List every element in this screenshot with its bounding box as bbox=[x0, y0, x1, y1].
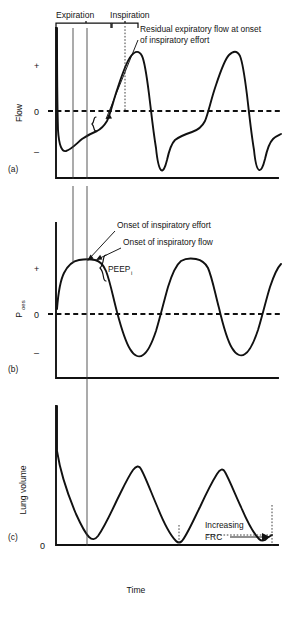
cross-panel-guide-lines bbox=[73, 28, 87, 546]
panel-c-lung-volume: 0 Lung volume Increasing FRC (c) Time bbox=[8, 406, 278, 595]
residual-flow-annotation-line2: of inspiratory effort bbox=[140, 35, 210, 45]
panel-a-tick-plus: + bbox=[34, 61, 39, 71]
peep-subscript: i bbox=[131, 270, 132, 276]
panel-b-poes-curve bbox=[57, 258, 281, 356]
panel-b-tag: (b) bbox=[8, 364, 18, 374]
panel-a-tag: (a) bbox=[8, 164, 18, 174]
panel-c-tick-zero: 0 bbox=[40, 541, 45, 551]
onset-effort-annotation: Onset of inspiratory effort bbox=[117, 220, 212, 230]
expiration-label: Expiration bbox=[56, 10, 94, 20]
phase-brackets: Expiration Inspiration bbox=[56, 10, 150, 28]
panel-b-y-axis-label: P bbox=[14, 312, 24, 318]
expiration-bracket bbox=[56, 21, 111, 28]
panel-a-axes bbox=[56, 28, 278, 178]
onset-effort-leader-line bbox=[89, 231, 115, 259]
panel-a-tick-zero: 0 bbox=[34, 107, 39, 117]
residual-flow-leader-line bbox=[106, 40, 138, 119]
panel-b-poes: + 0 – P oes PEEP i Onset of inspiratory … bbox=[8, 220, 281, 378]
onset-flow-arrowhead-icon bbox=[96, 255, 102, 260]
residual-flow-brace bbox=[92, 117, 96, 131]
panel-b-y-axis-subscript: oes bbox=[20, 300, 26, 310]
panel-b-tick-plus: + bbox=[34, 264, 39, 274]
panel-b-tick-minus: – bbox=[34, 348, 39, 358]
residual-flow-annotation-line1: Residual expiratory flow at onset bbox=[140, 24, 262, 34]
respiratory-mechanics-figure: Expiration Inspiration + 0 – Flow Residu… bbox=[0, 0, 283, 619]
panel-a-y-axis-label: Flow bbox=[14, 103, 24, 122]
x-axis-label-time: Time bbox=[127, 585, 146, 595]
onset-flow-annotation: Onset of inspiratory flow bbox=[123, 237, 214, 247]
panel-c-tag: (c) bbox=[8, 532, 18, 542]
panel-a-tick-minus: – bbox=[34, 147, 39, 157]
peep-label: PEEP bbox=[108, 264, 131, 274]
panel-c-y-axis-label: Lung volume bbox=[18, 465, 28, 514]
panel-a-flow-curve bbox=[57, 28, 281, 171]
inspiration-label: Inspiration bbox=[110, 10, 150, 20]
panel-b-y-axis-label-group: P oes bbox=[14, 300, 26, 318]
increasing-frc-line1: Increasing bbox=[205, 520, 244, 530]
onset-flow-leader-line bbox=[98, 248, 121, 259]
increasing-frc-line2: FRC bbox=[205, 532, 222, 542]
panel-a-flow: + 0 – Flow Residual expiratory flow at o… bbox=[8, 24, 281, 178]
panel-b-tick-zero: 0 bbox=[34, 310, 39, 320]
panel-c-axes bbox=[56, 406, 278, 545]
